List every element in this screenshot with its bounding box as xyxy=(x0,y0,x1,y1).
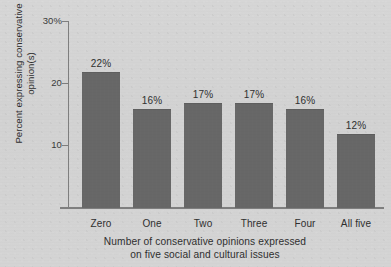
bar-two[interactable] xyxy=(184,103,222,208)
bar-value-label-all-five: 12% xyxy=(331,120,381,131)
bar-one[interactable] xyxy=(133,109,171,208)
bar-group-two: 17% Two xyxy=(184,18,222,208)
bar-three[interactable] xyxy=(235,103,273,208)
x-axis-title-line1: Number of conservative opinions expresse… xyxy=(104,236,306,247)
bar-all-five[interactable] xyxy=(337,134,375,208)
x-category-label-four: Four xyxy=(276,218,334,229)
bar-four[interactable] xyxy=(286,109,324,208)
x-category-label-one: One xyxy=(123,218,181,229)
bar-zero[interactable] xyxy=(82,72,120,208)
bar-group-zero: 22% Zero xyxy=(82,18,120,208)
bar-value-label-zero: 22% xyxy=(76,58,126,69)
x-category-label-zero: Zero xyxy=(72,218,130,229)
bar-value-label-one: 16% xyxy=(127,95,177,106)
bar-group-four: 16% Four xyxy=(286,18,324,208)
y-axis-title: Percent expressing conservative opinion(… xyxy=(13,0,36,160)
bar-value-label-three: 17% xyxy=(229,89,279,100)
bar-value-label-four: 16% xyxy=(280,95,330,106)
bar-group-one: 16% One xyxy=(133,18,171,208)
y-axis-title-line1: Percent expressing conservative xyxy=(13,3,24,143)
bar-group-three: 17% Three xyxy=(235,18,273,208)
x-category-label-two: Two xyxy=(174,218,232,229)
x-category-label-all-five: All five xyxy=(327,218,385,229)
plot-area: 22% Zero 16% One 17% Two 17% Three 16% F… xyxy=(68,18,384,208)
bar-chart-figure: 30% 20 10 22% Zero 16% One 17% Two 17% xyxy=(0,0,391,267)
x-axis-title: Number of conservative opinions expresse… xyxy=(40,236,370,261)
x-category-label-three: Three xyxy=(225,218,283,229)
y-axis-title-line2: opinion(s) xyxy=(24,52,35,95)
bar-group-all-five: 12% All five xyxy=(337,18,375,208)
bar-value-label-two: 17% xyxy=(178,89,228,100)
x-axis-title-line2: on five social and cultural issues xyxy=(130,249,280,260)
